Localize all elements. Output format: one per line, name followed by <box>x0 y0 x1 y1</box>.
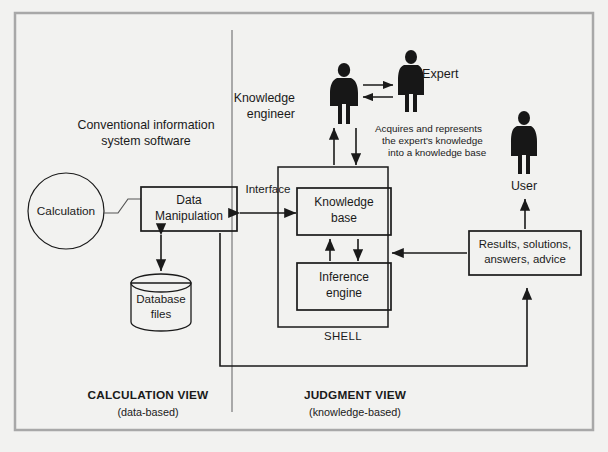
acquires-annotation-line1: Acquires and represents <box>375 123 482 134</box>
interface-label: Interface <box>245 182 290 195</box>
knowledge-engineer-label-line2: engineer <box>247 107 295 121</box>
acquires-annotation-line3: into a knowledge base <box>388 147 487 158</box>
data-manipulation-label-line2: Manipulation <box>155 209 223 223</box>
calculation-node-label: Calculation <box>37 204 95 218</box>
calculation-view-subtitle: (data-based) <box>117 406 178 418</box>
knowledge-base-label-line2: base <box>331 211 357 225</box>
user-label: User <box>511 179 537 193</box>
diagram-canvas: Conventional information system software… <box>0 0 608 452</box>
database-files-label-line2: files <box>151 307 172 320</box>
knowledge-base-label-line1: Knowledge <box>314 195 374 209</box>
inference-engine-label-line1: Inference <box>319 270 369 284</box>
data-manipulation-label-line1: Data <box>176 193 202 207</box>
database-files-label-line1: Database <box>136 292 186 305</box>
shell-label: SHELL <box>324 330 362 342</box>
inference-engine-label-line2: engine <box>326 286 362 300</box>
judgment-view-subtitle: (knowledge-based) <box>309 406 401 418</box>
expert-system-architecture-diagram: Conventional information system software… <box>0 0 608 452</box>
conventional-software-caption-line2: system software <box>101 134 191 148</box>
canvas-background <box>0 0 608 452</box>
acquires-annotation-line2: the expert's knowledge <box>382 135 483 146</box>
results-label-line1: Results, solutions, <box>479 238 571 250</box>
judgment-view-title: JUDGMENT VIEW <box>304 388 407 402</box>
expert-label: Expert <box>422 67 459 81</box>
conventional-software-caption-line1: Conventional information <box>77 118 214 132</box>
results-label-line2: answers, advice <box>484 253 566 265</box>
knowledge-engineer-label-line1: Knowledge <box>234 91 295 105</box>
calculation-view-title: CALCULATION VIEW <box>88 388 210 402</box>
